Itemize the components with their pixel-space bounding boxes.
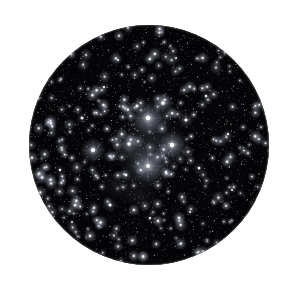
screenshot-root (0, 0, 283, 291)
starfield-canvas (29, 25, 269, 265)
telescope-field-of-view (29, 25, 269, 265)
